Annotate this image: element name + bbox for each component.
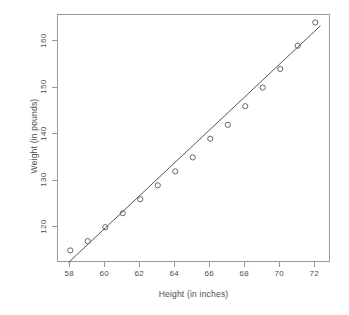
data-point — [138, 197, 143, 202]
y-tick-mark — [52, 180, 57, 181]
plot-area — [57, 14, 330, 262]
x-tick-label: 58 — [57, 269, 81, 278]
data-point — [103, 225, 108, 230]
data-point — [68, 248, 73, 253]
y-tick-label: 150 — [39, 78, 48, 96]
y-tick-mark — [52, 133, 57, 134]
y-tick-mark — [52, 87, 57, 88]
x-tick-mark — [314, 262, 315, 267]
data-point — [155, 183, 160, 188]
data-point — [85, 239, 90, 244]
x-tick-mark — [209, 262, 210, 267]
x-tick-mark — [69, 262, 70, 267]
scatter-plot-figure: 5860626466687072 120130140150160 Height … — [0, 0, 349, 315]
data-point — [278, 66, 283, 71]
x-tick-mark — [279, 262, 280, 267]
data-point-group — [68, 20, 318, 253]
x-tick-mark — [174, 262, 175, 267]
x-tick-mark — [139, 262, 140, 267]
regression-line — [69, 26, 321, 263]
y-tick-label: 160 — [39, 31, 48, 49]
y-tick-label: 130 — [39, 171, 48, 189]
x-tick-label: 66 — [197, 269, 221, 278]
x-axis-title: Height (in inches) — [57, 289, 330, 299]
y-tick-mark — [52, 226, 57, 227]
y-axis-title: Weight (in pounds) — [29, 61, 39, 211]
data-point — [208, 136, 213, 141]
x-tick-mark — [244, 262, 245, 267]
y-tick-label: 120 — [39, 217, 48, 235]
data-point — [225, 122, 230, 127]
x-tick-mark — [104, 262, 105, 267]
data-point — [173, 169, 178, 174]
x-tick-label: 70 — [267, 269, 291, 278]
x-tick-label: 60 — [92, 269, 116, 278]
data-point — [313, 20, 318, 25]
x-tick-label: 62 — [127, 269, 151, 278]
x-tick-label: 72 — [302, 269, 326, 278]
data-layer — [58, 15, 331, 263]
data-point — [243, 104, 248, 109]
x-tick-label: 64 — [162, 269, 186, 278]
data-point — [190, 155, 195, 160]
y-tick-mark — [52, 40, 57, 41]
y-tick-label: 140 — [39, 124, 48, 142]
data-point — [260, 85, 265, 90]
x-tick-label: 68 — [232, 269, 256, 278]
